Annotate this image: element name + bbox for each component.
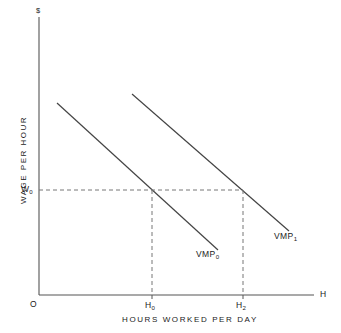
y-axis-title-wrap: WAGE PER HOUR [6,96,20,206]
series-label-vmp0-sub: 0 [216,253,219,260]
series-line-vmp1 [132,94,289,231]
series-label-vmp1: VMP1 [274,232,297,241]
x-tick-label-h2-sub: 2 [242,304,245,311]
x-tick-label-h2: H2 [236,301,246,310]
x-axis-symbol-label: H [320,290,326,299]
y-tick-label-w0-sub: 0 [29,188,32,195]
y-axis-unit-symbol: $ [36,7,41,15]
economics-chart-figure: $ WAGE PER HOUR W0 O H H0 H2 HOURS WORKE… [0,0,341,333]
x-tick-label-h0-sub: 0 [151,304,154,311]
x-axis-title: HOURS WORKED PER DAY [122,316,258,324]
series-line-vmp0 [57,103,218,250]
chart-canvas [0,0,341,333]
series-label-vmp1-main: VMP [274,231,294,241]
series-label-vmp1-sub: 1 [294,235,297,242]
x-tick-label-h0: H0 [145,301,155,310]
y-tick-label-w0: W0 [21,185,33,194]
series-label-vmp0-main: VMP [196,249,216,259]
series-label-vmp0: VMP0 [196,250,219,259]
origin-label: O [30,300,37,309]
